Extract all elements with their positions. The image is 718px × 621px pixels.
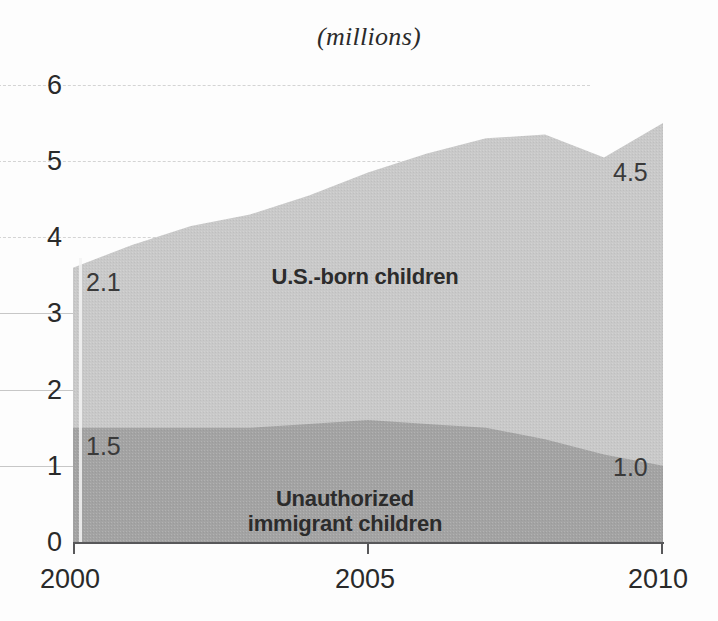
y-axis-label-2: 2 bbox=[18, 375, 62, 406]
value-label-us-born-2000: 2.1 bbox=[86, 268, 121, 297]
x-axis-label-2005: 2005 bbox=[335, 564, 395, 595]
y-axis-label-4: 4 bbox=[18, 222, 62, 253]
x-axis-label-2010: 2010 bbox=[628, 564, 688, 595]
y-axis-label-3: 3 bbox=[18, 298, 62, 329]
x-tick-2010 bbox=[661, 543, 663, 554]
series-label-unauthorized-line2: immigrant children bbox=[205, 512, 485, 537]
y-axis-label-6: 6 bbox=[18, 70, 62, 101]
y-axis-label-0: 0 bbox=[18, 527, 62, 558]
y-axis-label-1: 1 bbox=[18, 451, 62, 482]
series-label-unauthorized-line1: Unauthorized bbox=[205, 487, 485, 512]
y-axis-label-5: 5 bbox=[18, 146, 62, 177]
x-tick-2000 bbox=[73, 543, 75, 554]
plot-left-rule bbox=[79, 258, 82, 542]
x-tick-2005 bbox=[367, 543, 369, 554]
chart-figure: (millions) 6 5 4 3 2 1 0 2000 2005 2010 bbox=[0, 0, 718, 621]
value-label-unauthorized-2000: 1.5 bbox=[86, 432, 121, 461]
series-label-us-born-children: U.S.-born children bbox=[240, 265, 490, 290]
value-label-us-born-2010: 4.5 bbox=[613, 158, 648, 187]
value-label-unauthorized-2010: 1.0 bbox=[613, 453, 648, 482]
x-axis-label-2000: 2000 bbox=[40, 564, 100, 595]
